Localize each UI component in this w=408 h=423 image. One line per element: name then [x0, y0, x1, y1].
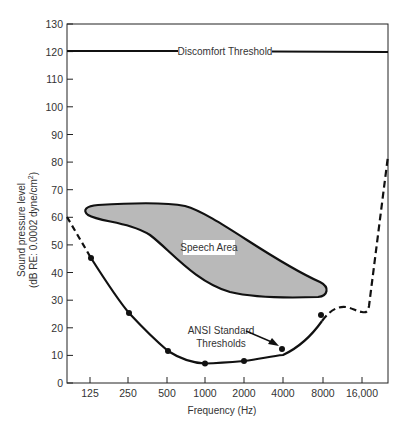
svg-text:16,000: 16,000 — [346, 387, 378, 399]
svg-text:10: 10 — [51, 349, 63, 361]
svg-text:110: 110 — [46, 73, 63, 85]
svg-text:500: 500 — [158, 387, 176, 399]
svg-text:70: 70 — [51, 184, 63, 196]
ansi-label-line2: Thresholds — [196, 338, 245, 349]
threshold-dashed-high — [322, 156, 388, 321]
svg-text:125: 125 — [81, 387, 99, 399]
svg-text:100: 100 — [45, 101, 63, 113]
x-axis-title: Frequency (Hz) — [188, 405, 257, 416]
svg-text:30: 30 — [51, 294, 63, 306]
svg-text:8000: 8000 — [311, 387, 335, 399]
ansi-arrow-icon — [246, 331, 279, 346]
svg-text:40: 40 — [51, 267, 63, 279]
svg-text:4000: 4000 — [271, 387, 295, 399]
svg-text:90: 90 — [51, 129, 63, 141]
discomfort-threshold-line: Discomfort Threshold — [67, 46, 388, 57]
y-tick-labels: 0 10 20 30 40 50 60 70 80 90 100 110 120… — [45, 18, 63, 389]
svg-text:50: 50 — [51, 239, 63, 251]
y-axis-title: Sound pressure level (dB RE: 0.0002 dyne… — [16, 172, 39, 288]
y-axis — [67, 24, 73, 383]
svg-text:0: 0 — [57, 377, 63, 389]
svg-text:Sound pressure level: Sound pressure level — [16, 183, 27, 277]
svg-text:120: 120 — [45, 46, 63, 58]
svg-text:80: 80 — [51, 156, 63, 168]
svg-text:20: 20 — [51, 322, 63, 334]
svg-text:2000: 2000 — [232, 387, 256, 399]
svg-text:(dB RE: 0.0002 dyne/cm2): (dB RE: 0.0002 dyne/cm2) — [27, 172, 39, 288]
ansi-label-line1: ANSI Standard — [188, 325, 255, 336]
threshold-dashed-low — [67, 217, 91, 258]
svg-text:1000: 1000 — [193, 387, 217, 399]
svg-text:130: 130 — [45, 18, 63, 30]
svg-text:Discomfort Threshold: Discomfort Threshold — [178, 46, 273, 57]
speech-area-label: Speech Area — [180, 242, 238, 253]
svg-text:250: 250 — [119, 387, 137, 399]
audiogram-chart: 0 10 20 30 40 50 60 70 80 90 100 110 120… — [0, 0, 408, 423]
svg-text:60: 60 — [51, 211, 63, 223]
x-axis — [90, 377, 362, 383]
x-tick-labels: 125 250 500 1000 2000 4000 8000 16,000 — [81, 387, 378, 399]
